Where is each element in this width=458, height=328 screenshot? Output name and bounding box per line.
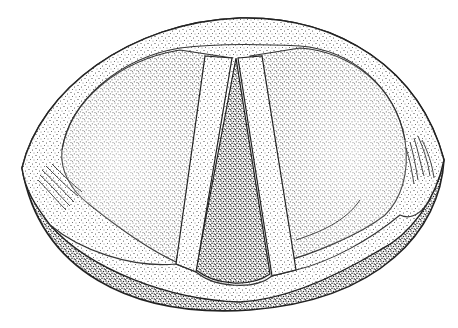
illustration-canvas — [0, 0, 458, 328]
stipple-illustration — [0, 0, 458, 328]
